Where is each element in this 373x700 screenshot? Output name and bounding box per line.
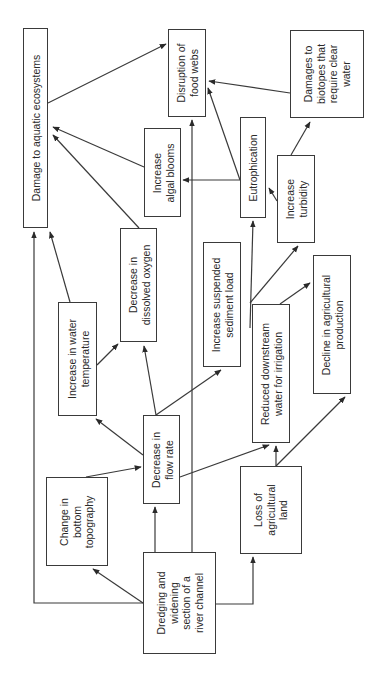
node-turbidity: Increase turbidity [277,155,315,243]
node-label: Disruption of food webs [175,44,200,103]
arrow-dredging-to-topo [93,569,143,603]
node-label: Dredging and widening section of a river… [155,571,205,634]
node-label: Decrease in dissolved oxygen [126,245,151,326]
arrow-topo-to-flow [86,467,141,477]
node-agriprod: Decline in agricultural production [313,255,351,394]
node-label: Increase turbidity [284,179,309,219]
node-sediment: Increase suspended sediment load [203,242,241,367]
arrow-flow-to-sediment [156,370,221,415]
arrow-turbidity-to-biotopes [291,122,310,155]
node-topo: Change in bottom topography [46,477,108,566]
node-label: Increase in water temperature [65,319,90,399]
arrow-damage-to-foodwebs [48,44,166,103]
node-agriland: Loss of agricultural land [240,466,302,554]
node-label: Decrease in flow rate [149,431,174,487]
node-foodwebs: Disruption of food webs [168,29,206,117]
node-label: Loss of agricultural land [252,484,290,535]
node-temp: Increase in water temperature [58,302,97,416]
node-eutro: Eutrophication [240,117,266,218]
arrow-irrigation-to-agriprod [280,283,310,304]
node-label: Change in bottom topography [58,495,96,548]
arrow-sediment-to-turbidity [250,246,298,303]
arrow-temp-to-oxygen [97,344,118,365]
node-irrigation: Reduced downstream water for irrigation [252,304,290,443]
node-label: Damages to biotopes that require clear w… [302,44,352,104]
arrow-flow-to-temp [96,419,143,455]
arrow-turbidity-to-eutro [269,188,277,201]
node-label: Eutrophication [247,134,260,201]
arrow-temp-to-damage [50,232,70,302]
node-damage: Damage to aquatic ecosystems [23,28,48,228]
arrow-dredging-to-agriland [216,557,253,604]
node-label: Increase algal blooms [150,143,175,202]
node-label: Increase suspended sediment load [210,257,235,352]
node-dredging: Dredging and widening section of a river… [143,552,216,654]
node-flow: Decrease in flow rate [143,415,180,504]
arrow-eutro-to-foodwebs [208,88,240,180]
node-biotopes: Damages to biotopes that require clear w… [290,30,364,118]
node-label: Damage to aquatic ecosystems [29,55,42,202]
arrow-algal-to-damage [53,127,144,167]
arrow-oxygen-to-damage [53,135,139,228]
node-label: Reduced downstream water for irrigation [259,322,284,424]
node-oxygen: Decrease in dissolved oxygen [120,228,157,342]
arrow-flow-to-oxygen [144,346,156,415]
node-label: Decline in agricultural production [320,274,345,374]
node-algal: Increase algal blooms [144,128,181,217]
arrow-biotopes-to-foodwebs [209,81,290,93]
